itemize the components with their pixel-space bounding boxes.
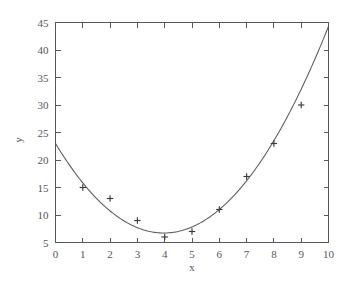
- y-tick-label: 20: [38, 154, 50, 166]
- y-tick-label: 30: [38, 99, 50, 111]
- y-tick-label: 35: [38, 72, 50, 84]
- y-tick-label: 15: [38, 182, 50, 194]
- y-tick-label: 45: [38, 17, 50, 29]
- y-tick-label: 5: [43, 237, 49, 249]
- chart-figure: 51015202530354045 012345678910 y x: [0, 0, 349, 287]
- scatter-plot-svg: 51015202530354045 012345678910 y x: [0, 0, 349, 287]
- x-tick-label: 3: [135, 248, 141, 260]
- x-tick-label: 4: [162, 248, 168, 260]
- x-tick-label: 2: [107, 248, 113, 260]
- y-tick-label: 40: [38, 44, 50, 56]
- x-tick-label: 6: [217, 248, 223, 260]
- x-axis-label: x: [189, 261, 195, 273]
- y-tick-label: 10: [38, 209, 50, 221]
- x-tick-label: 1: [80, 248, 86, 260]
- x-tick-label: 10: [323, 248, 335, 260]
- plot-background: [0, 0, 349, 287]
- y-tick-label: 25: [38, 127, 50, 139]
- y-axis-label: y: [12, 137, 24, 143]
- x-tick-label: 0: [53, 248, 59, 260]
- x-tick-label: 7: [244, 248, 250, 260]
- x-tick-label: 9: [298, 248, 304, 260]
- x-tick-label: 8: [271, 248, 277, 260]
- x-tick-label: 5: [189, 248, 195, 260]
